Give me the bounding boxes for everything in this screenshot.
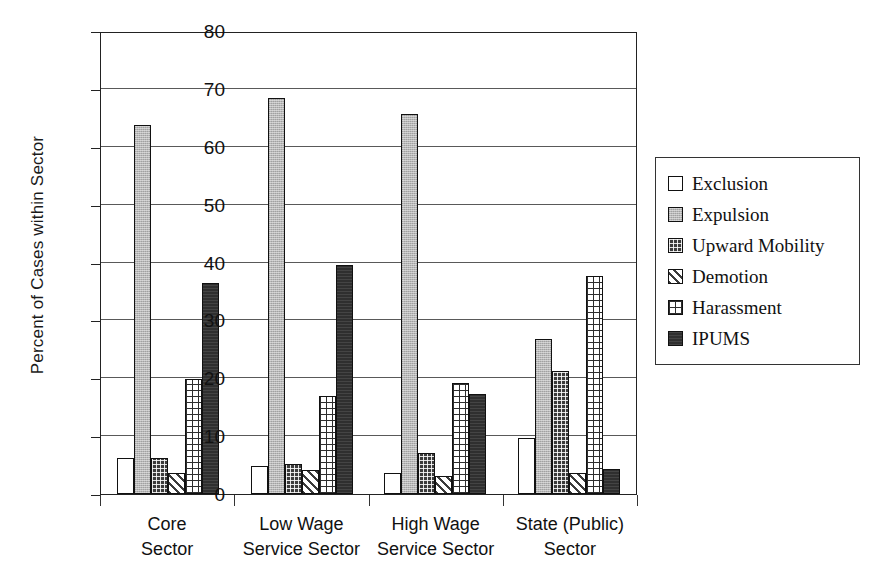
- x-label-line: State (Public): [503, 512, 637, 537]
- legend-item[interactable]: IPUMS: [668, 323, 849, 354]
- bar: [285, 464, 302, 494]
- y-tick-label: 60: [105, 137, 225, 159]
- legend-swatch-exclusion: [668, 176, 683, 191]
- y-tick-label: 50: [105, 195, 225, 217]
- legend-label: Harassment: [692, 297, 782, 319]
- y-tick-mark: [91, 90, 100, 91]
- legend-label: Exclusion: [692, 173, 768, 195]
- bar: [452, 383, 469, 494]
- y-axis-title: Percent of Cases within Sector: [28, 45, 48, 465]
- y-tick-label: 80: [105, 21, 225, 43]
- y-tick-mark: [91, 264, 100, 265]
- bar: [569, 473, 586, 494]
- x-label-line: High Wage: [369, 512, 503, 537]
- legend-label: Upward Mobility: [692, 235, 824, 257]
- x-label-line: Low Wage: [234, 512, 368, 537]
- x-axis-category-label: State (Public)Sector: [503, 512, 637, 562]
- x-axis-category-label: Low WageService Sector: [234, 512, 368, 562]
- y-tick-mark: [91, 437, 100, 438]
- bar: [469, 394, 486, 494]
- x-axis-category-label: CoreSector: [100, 512, 234, 562]
- y-tick-label: 10: [105, 426, 225, 448]
- x-tick-mark: [369, 495, 370, 506]
- bar-group: [369, 33, 503, 494]
- y-tick-mark: [91, 495, 100, 496]
- bar: [418, 453, 435, 494]
- legend-item[interactable]: Demotion: [668, 261, 849, 292]
- chart-legend: ExclusionExpulsionUpward MobilityDemotio…: [655, 157, 860, 365]
- y-tick-label: 70: [105, 79, 225, 101]
- y-tick-label: 20: [105, 368, 225, 390]
- bar: [268, 98, 285, 494]
- bar: [518, 438, 535, 494]
- bar: [435, 476, 452, 494]
- y-tick-label: 0: [105, 484, 225, 506]
- x-axis-labels: CoreSectorLow WageService SectorHigh Wag…: [100, 512, 637, 562]
- x-axis-category-label: High WageService Sector: [369, 512, 503, 562]
- legend-swatch-ipums: [668, 331, 683, 346]
- y-tick-mark: [91, 379, 100, 380]
- y-tick-mark: [91, 206, 100, 207]
- x-label-line: Sector: [100, 537, 234, 562]
- y-tick-mark: [91, 148, 100, 149]
- bar: [586, 276, 603, 494]
- x-label-line: Service Sector: [369, 537, 503, 562]
- legend-label: Demotion: [692, 266, 768, 288]
- legend-item[interactable]: Harassment: [668, 292, 849, 323]
- legend-item[interactable]: Expulsion: [668, 199, 849, 230]
- bar: [552, 371, 569, 494]
- y-tick-mark: [91, 321, 100, 322]
- legend-label: Expulsion: [692, 204, 769, 226]
- legend-item[interactable]: Exclusion: [668, 168, 849, 199]
- x-tick-mark: [100, 495, 101, 506]
- x-label-line: Service Sector: [234, 537, 368, 562]
- legend-swatch-expulsion: [668, 207, 683, 222]
- legend-label: IPUMS: [692, 328, 750, 350]
- legend-swatch-demotion: [668, 269, 683, 284]
- x-tick-mark: [637, 495, 638, 506]
- x-label-line: Sector: [503, 537, 637, 562]
- bar: [401, 114, 418, 494]
- bar: [302, 470, 319, 494]
- y-tick-mark: [91, 32, 100, 33]
- x-tick-mark: [234, 495, 235, 506]
- bar-group: [502, 33, 636, 494]
- x-tick-mark: [503, 495, 504, 506]
- legend-swatch-upward-mobility: [668, 238, 683, 253]
- bar: [251, 466, 268, 494]
- bar-group: [235, 33, 369, 494]
- legend-item[interactable]: Upward Mobility: [668, 230, 849, 261]
- y-tick-label: 40: [105, 253, 225, 275]
- bar: [319, 396, 336, 494]
- bar: [603, 469, 620, 494]
- bar: [535, 339, 552, 494]
- bar: [384, 473, 401, 494]
- legend-swatch-harassment: [668, 300, 683, 315]
- y-tick-label: 30: [105, 310, 225, 332]
- x-label-line: Core: [100, 512, 234, 537]
- bar: [336, 265, 353, 494]
- bar-chart: Percent of Cases within Sector 010203040…: [0, 0, 873, 584]
